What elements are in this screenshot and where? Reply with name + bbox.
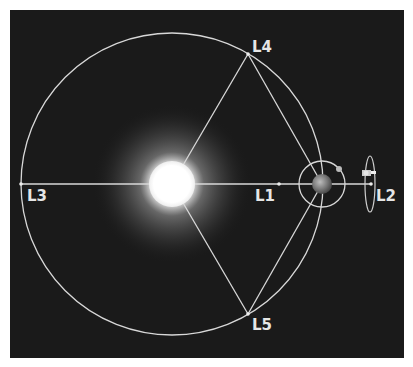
l3-point bbox=[19, 182, 23, 186]
l1-point bbox=[277, 182, 281, 186]
label-l3: L3 bbox=[27, 187, 47, 205]
l2-point bbox=[369, 182, 373, 186]
moon bbox=[336, 166, 342, 172]
earth bbox=[312, 174, 332, 194]
l5-point bbox=[246, 312, 250, 316]
l4-point bbox=[246, 52, 250, 56]
label-l4: L4 bbox=[252, 38, 272, 56]
label-l1: L1 bbox=[255, 187, 275, 205]
label-l5: L5 bbox=[252, 316, 272, 334]
label-l2: L2 bbox=[376, 187, 396, 205]
lagrange-diagram: L4 L5 L3 L1 L2 bbox=[0, 0, 413, 367]
sun bbox=[149, 161, 195, 207]
